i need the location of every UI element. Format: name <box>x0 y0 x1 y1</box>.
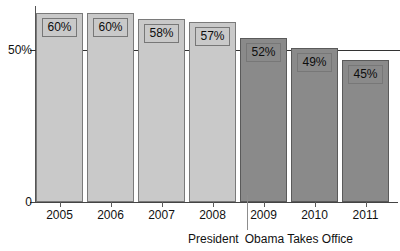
y-tick-label-50: 50% <box>0 43 32 57</box>
x-tick-label-2008: 2008 <box>187 208 238 222</box>
bar-value-label-2009: 52% <box>246 43 281 62</box>
bar-value-label-2005: 60% <box>42 18 77 37</box>
x-tick-2006 <box>111 202 112 207</box>
x-axis-baseline <box>30 202 398 203</box>
x-tick-2008 <box>213 202 214 207</box>
bar-2008 <box>189 22 236 202</box>
x-tick-label-2011: 2011 <box>340 208 391 222</box>
bar-value-label-2011: 45% <box>348 65 383 84</box>
bar-value-label-2006: 60% <box>93 18 128 37</box>
plot-area: 50% 0 60%200560%200658%200757%200852%200… <box>0 0 400 251</box>
bar-value-label-2007: 58% <box>144 24 179 43</box>
x-tick-2010 <box>315 202 316 207</box>
bar-2005 <box>36 13 83 202</box>
x-tick-label-2006: 2006 <box>85 208 136 222</box>
x-tick-label-2005: 2005 <box>34 208 85 222</box>
caption-president-word: President <box>188 232 239 246</box>
obama-inauguration-caption: PresidentObama Takes Office <box>188 232 353 246</box>
x-tick-2011 <box>366 202 367 207</box>
obama-inauguration-divider <box>247 195 248 230</box>
bar-chart: 50% 0 60%200560%200658%200757%200852%200… <box>0 0 400 251</box>
x-tick-label-2010: 2010 <box>289 208 340 222</box>
x-tick-2007 <box>162 202 163 207</box>
x-tick-label-2007: 2007 <box>136 208 187 222</box>
x-tick-2005 <box>60 202 61 207</box>
y-tick-label-0: 0 <box>0 195 32 209</box>
bar-value-label-2008: 57% <box>195 27 230 46</box>
bar-2006 <box>87 13 134 202</box>
x-tick-2009 <box>264 202 265 207</box>
x-tick-label-2009: 2009 <box>238 208 289 222</box>
bar-value-label-2010: 49% <box>297 53 332 72</box>
caption-obama-phrase: Obama Takes Office <box>245 232 353 246</box>
bar-2009 <box>240 38 287 202</box>
bar-2007 <box>138 19 185 202</box>
